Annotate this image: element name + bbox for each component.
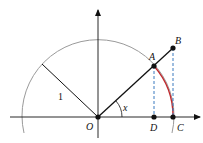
label-D: D: [149, 122, 158, 133]
label-O: O: [86, 121, 93, 132]
label-A: A: [148, 51, 156, 62]
angle-arc: [116, 101, 122, 117]
label-B: B: [175, 35, 181, 46]
radius-label: 1: [58, 91, 63, 102]
angle-label: x: [122, 102, 128, 113]
point-B: [170, 45, 175, 50]
point-D: [151, 114, 156, 119]
radius-line: [42, 64, 98, 117]
label-C: C: [177, 122, 184, 133]
unit-circle-diagram: 1 x O A B D C: [0, 0, 203, 143]
line-OB: [98, 48, 173, 117]
point-C: [170, 114, 175, 119]
point-A: [151, 63, 156, 68]
point-O: [95, 114, 100, 119]
